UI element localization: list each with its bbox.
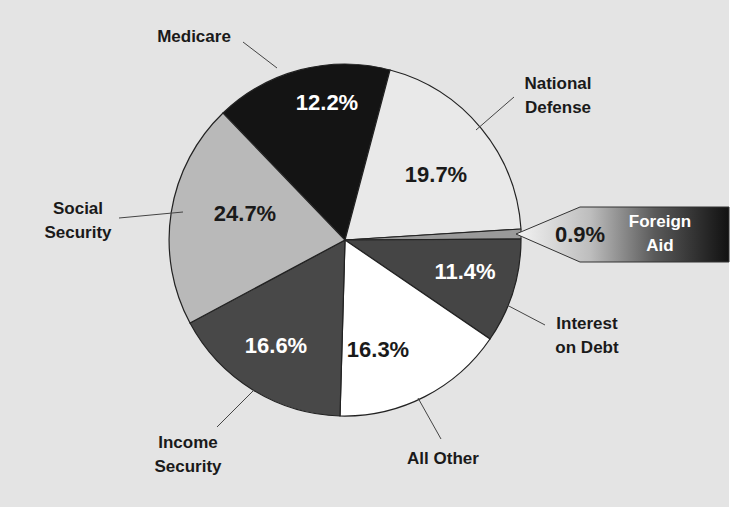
label-foreign-aid-line1: Foreign (629, 212, 691, 231)
label-medicare: Medicare (157, 27, 231, 46)
pct-income-security: 16.6% (245, 333, 307, 358)
label-all-other: All Other (407, 449, 479, 468)
label-social-security-line2: Security (44, 223, 112, 242)
leader-interest (505, 304, 545, 325)
label-national-defense-line1: National (524, 74, 591, 93)
pct-medicare: 12.2% (296, 90, 358, 115)
label-interest-line2: on Debt (555, 338, 619, 357)
leader-income-security (217, 390, 254, 427)
pct-foreign-aid: 0.9% (555, 222, 605, 247)
leader-medicare (243, 42, 277, 68)
label-income-security-line2: Security (154, 457, 222, 476)
pct-interest: 11.4% (434, 259, 495, 284)
pct-all-other: 16.3% (347, 337, 409, 362)
label-national-defense-line2: Defense (525, 98, 591, 117)
pie-chart: 12.2% 19.7% 24.7% 0.9% 11.4% 16.6% 16.3%… (0, 0, 737, 507)
pct-social-security: 24.7% (214, 201, 276, 226)
label-interest-line1: Interest (556, 314, 618, 333)
leader-national-defense (476, 97, 514, 130)
leader-all-other (418, 398, 441, 439)
label-foreign-aid-line2: Aid (646, 236, 673, 255)
label-social-security-line1: Social (53, 199, 103, 218)
pct-national-defense: 19.7% (405, 162, 467, 187)
label-income-security-line1: Income (158, 433, 218, 452)
foreign-aid-callout (516, 207, 729, 262)
